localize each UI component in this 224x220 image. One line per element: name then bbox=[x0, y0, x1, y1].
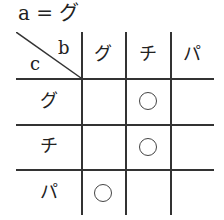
corner-diagonal bbox=[16, 32, 86, 82]
grid-line bbox=[16, 78, 214, 80]
equation-title: a = グ bbox=[18, 0, 79, 26]
circle-mark bbox=[139, 138, 157, 156]
column-header: グ bbox=[81, 44, 125, 64]
grid-line bbox=[16, 169, 214, 171]
corner-col-label: b bbox=[58, 38, 70, 58]
row-header: グ bbox=[16, 91, 81, 111]
column-header: チ bbox=[125, 44, 170, 64]
row-header: パ bbox=[16, 182, 81, 202]
grid-line bbox=[16, 124, 214, 126]
row-header: チ bbox=[16, 136, 81, 156]
circle-mark bbox=[139, 92, 157, 110]
column-header: パ bbox=[170, 44, 214, 64]
circle-mark bbox=[94, 184, 112, 202]
corner-row-label: c bbox=[30, 54, 40, 74]
